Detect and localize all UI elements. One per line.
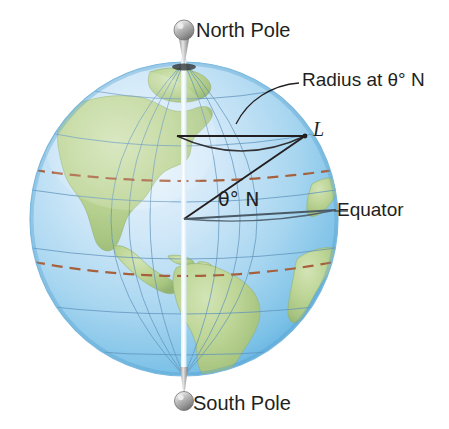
pin-base-shadow — [172, 64, 196, 71]
south-pole-label: South Pole — [193, 393, 291, 413]
pin-ball-highlight — [178, 395, 184, 401]
pin-ball-highlight — [178, 23, 184, 29]
north-pole-label: North Pole — [196, 20, 291, 40]
point-l-label: L — [313, 119, 324, 139]
sphere-highlight — [44, 70, 216, 210]
angle-theta-label: θ° N — [218, 190, 259, 209]
radius-at-latitude-label: Radius at θ° N — [302, 70, 425, 89]
pin-ball — [174, 20, 194, 40]
equator-label: Equator — [337, 200, 404, 219]
pin-ball — [175, 392, 194, 411]
point-l-marker — [303, 134, 308, 139]
